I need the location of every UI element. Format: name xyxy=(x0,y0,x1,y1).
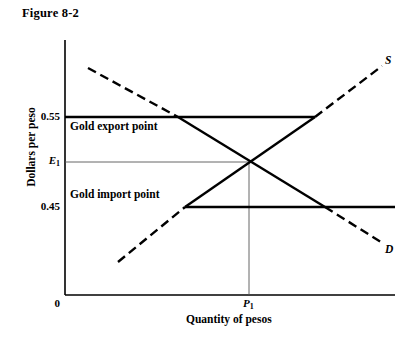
demand-curve-dashed-upper xyxy=(88,68,178,117)
supply-curve-dashed-upper xyxy=(315,66,382,117)
supply-curve-dashed-lower xyxy=(118,207,185,262)
x-axis-title: Quantity of pesos xyxy=(186,313,272,325)
gold-export-point-label: Gold export point xyxy=(70,120,158,132)
demand-curve-label: D xyxy=(385,243,393,255)
supply-curve-label: S xyxy=(385,54,391,66)
demand-curve-dashed-lower xyxy=(325,207,384,244)
origin-label: 0 xyxy=(18,297,60,309)
y-tick-e1-subscript: 1 xyxy=(56,159,60,168)
x-tick-p1-text: P xyxy=(243,297,250,309)
y-axis-title: Dollars per peso xyxy=(25,87,37,207)
figure-container: Figure 8-2 0.55 E1 0.45 0 P1 Dollars per… xyxy=(0,0,414,341)
gold-import-point-label: Gold import point xyxy=(70,188,159,200)
y-tick-e1-text: E xyxy=(49,154,56,166)
x-tick-label-p1: P1 xyxy=(243,297,254,309)
chart-canvas xyxy=(0,0,414,341)
x-tick-p1-subscript: 1 xyxy=(250,302,254,311)
